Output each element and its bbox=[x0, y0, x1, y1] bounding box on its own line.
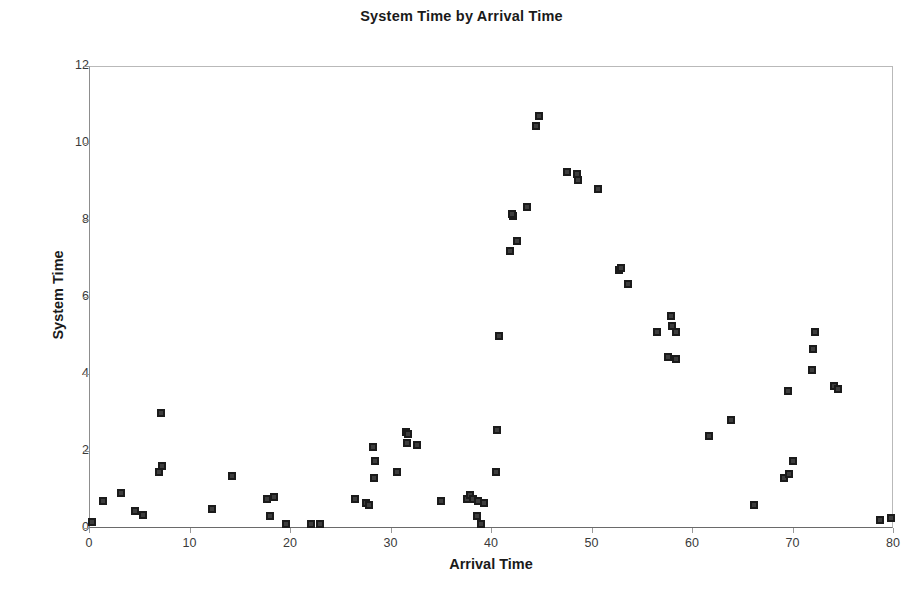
data-point bbox=[624, 280, 632, 288]
y-tick-label: 2 bbox=[63, 443, 89, 457]
data-point bbox=[493, 426, 501, 434]
data-point bbox=[617, 264, 625, 272]
data-point bbox=[492, 468, 500, 476]
data-point bbox=[404, 430, 412, 438]
x-tick-label: 30 bbox=[371, 536, 411, 550]
data-point bbox=[371, 457, 379, 465]
data-point bbox=[750, 501, 758, 509]
data-point bbox=[563, 168, 571, 176]
x-tick-label: 60 bbox=[672, 536, 712, 550]
x-tick-label: 40 bbox=[471, 536, 511, 550]
data-point bbox=[809, 345, 817, 353]
x-tick-label: 20 bbox=[270, 536, 310, 550]
y-tick-label: 8 bbox=[63, 212, 89, 226]
y-tick-label: 12 bbox=[63, 58, 89, 72]
x-tick-mark bbox=[893, 528, 894, 533]
data-point bbox=[99, 497, 107, 505]
data-point bbox=[413, 441, 421, 449]
x-tick-label: 50 bbox=[572, 536, 612, 550]
data-point bbox=[351, 495, 359, 503]
data-point bbox=[508, 210, 516, 218]
data-point bbox=[513, 237, 521, 245]
x-tick-mark bbox=[391, 528, 392, 533]
data-point bbox=[307, 520, 315, 528]
data-point bbox=[369, 443, 377, 451]
data-point bbox=[480, 499, 488, 507]
data-point bbox=[316, 520, 324, 528]
x-tick-label: 10 bbox=[170, 536, 210, 550]
data-point bbox=[887, 514, 895, 522]
x-tick-label: 80 bbox=[873, 536, 913, 550]
data-point bbox=[672, 355, 680, 363]
data-point bbox=[535, 112, 543, 120]
data-point bbox=[664, 353, 672, 361]
data-point bbox=[208, 505, 216, 513]
chart-title: System Time by Arrival Time bbox=[0, 8, 923, 24]
data-point bbox=[532, 122, 540, 130]
data-point bbox=[370, 474, 378, 482]
data-point bbox=[477, 520, 485, 528]
data-point bbox=[131, 507, 139, 515]
data-point bbox=[594, 185, 602, 193]
data-point bbox=[784, 387, 792, 395]
x-tick-mark bbox=[190, 528, 191, 533]
data-point bbox=[574, 176, 582, 184]
data-point bbox=[495, 332, 503, 340]
data-point bbox=[808, 366, 816, 374]
data-point bbox=[139, 511, 147, 519]
data-point bbox=[282, 520, 290, 528]
data-point bbox=[785, 470, 793, 478]
data-point bbox=[705, 432, 713, 440]
data-point bbox=[506, 247, 514, 255]
data-point bbox=[727, 416, 735, 424]
data-point bbox=[876, 516, 884, 524]
data-point bbox=[834, 385, 842, 393]
x-tick-mark bbox=[89, 528, 90, 533]
x-tick-mark bbox=[290, 528, 291, 533]
data-point bbox=[437, 497, 445, 505]
data-point bbox=[158, 462, 166, 470]
data-point bbox=[789, 457, 797, 465]
data-point bbox=[228, 472, 236, 480]
data-point bbox=[88, 518, 96, 526]
data-point bbox=[266, 512, 274, 520]
data-point bbox=[523, 203, 531, 211]
y-tick-label: 0 bbox=[63, 520, 89, 534]
data-point bbox=[365, 501, 373, 509]
data-point bbox=[667, 312, 675, 320]
data-point bbox=[672, 328, 680, 336]
x-tick-mark bbox=[692, 528, 693, 533]
data-point bbox=[811, 328, 819, 336]
x-tick-label: 0 bbox=[69, 536, 109, 550]
data-point bbox=[403, 439, 411, 447]
data-point bbox=[393, 468, 401, 476]
x-tick-mark bbox=[491, 528, 492, 533]
data-point bbox=[270, 493, 278, 501]
data-point bbox=[117, 489, 125, 497]
x-axis-title: Arrival Time bbox=[89, 556, 893, 572]
scatter-chart: System Time by Arrival Time System Time … bbox=[0, 0, 923, 590]
y-tick-label: 4 bbox=[63, 366, 89, 380]
x-tick-label: 70 bbox=[773, 536, 813, 550]
data-point bbox=[157, 409, 165, 417]
y-tick-label: 10 bbox=[63, 135, 89, 149]
data-point bbox=[653, 328, 661, 336]
x-tick-mark bbox=[793, 528, 794, 533]
x-tick-mark bbox=[592, 528, 593, 533]
y-tick-label: 6 bbox=[63, 289, 89, 303]
plot-data-area bbox=[89, 66, 893, 528]
